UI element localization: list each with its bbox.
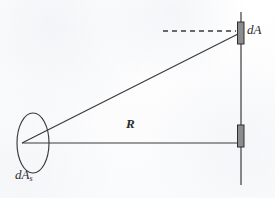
label-distance-r: R (126, 117, 135, 130)
normal-reference-patch (238, 125, 245, 147)
label-source-area-base: dA (15, 167, 29, 182)
label-source-area: dAs (15, 168, 33, 183)
radiation-view-factor-diagram: dA dAs R (0, 0, 275, 198)
target-area-patch (238, 22, 245, 44)
label-target-area: dA (247, 23, 261, 36)
label-source-area-subscript: s (29, 174, 32, 183)
diagram-canvas (0, 0, 275, 198)
